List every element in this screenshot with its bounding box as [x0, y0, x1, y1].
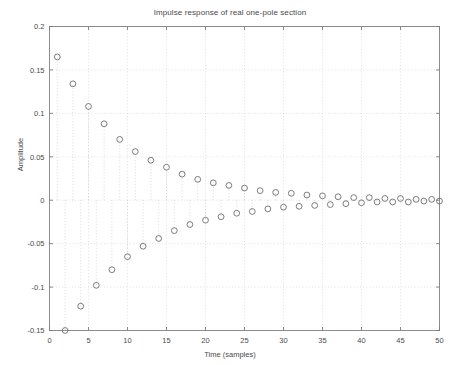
plot-canvas: 05101520253035404550-0.15-0.1-0.0500.050… [0, 0, 460, 365]
data-markers [54, 54, 442, 333]
x-axis-label: Time (samples) [0, 350, 460, 359]
svg-text:0.2: 0.2 [34, 22, 44, 31]
svg-text:0.05: 0.05 [30, 153, 45, 162]
svg-text:50: 50 [435, 336, 443, 345]
svg-text:10: 10 [123, 336, 131, 345]
svg-text:5: 5 [86, 336, 90, 345]
svg-text:0.1: 0.1 [34, 109, 44, 118]
svg-text:0.15: 0.15 [30, 66, 45, 75]
svg-text:20: 20 [201, 336, 209, 345]
svg-text:0: 0 [47, 336, 51, 345]
svg-text:35: 35 [318, 336, 326, 345]
svg-text:25: 25 [240, 336, 248, 345]
figure-container: Impulse response of real one-pole sectio… [0, 0, 460, 365]
svg-text:40: 40 [357, 336, 365, 345]
svg-text:45: 45 [396, 336, 404, 345]
tick-labels: 05101520253035404550-0.15-0.1-0.0500.050… [27, 22, 443, 344]
grid-lines [50, 27, 440, 331]
svg-text:30: 30 [279, 336, 287, 345]
svg-text:0: 0 [40, 196, 44, 205]
svg-text:-0.15: -0.15 [27, 326, 44, 335]
svg-text:-0.1: -0.1 [32, 283, 45, 292]
svg-text:-0.05: -0.05 [27, 239, 44, 248]
stem-lines [57, 57, 439, 331]
svg-text:15: 15 [162, 336, 170, 345]
